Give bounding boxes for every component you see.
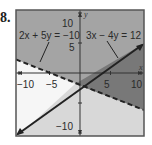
inequality-graph: −10 −5 5 10 10 5 −10 y x 2x + 5y = −10 3…	[0, 0, 152, 145]
y-tick-label: −10	[56, 121, 73, 132]
eq2-label: 3x − 4y = 12	[86, 30, 141, 41]
y-axis-label: y	[83, 10, 88, 19]
y-tick-label: 5	[69, 42, 75, 53]
y-tick-label: 10	[62, 18, 74, 29]
x-tick-label: 5	[104, 79, 110, 90]
eq1-label: 2x + 5y = −10	[19, 30, 80, 41]
x-axis-label: x	[138, 63, 143, 72]
x-tick-label: −10	[17, 79, 34, 90]
x-tick-label: 10	[131, 79, 143, 90]
x-tick-label: −5	[46, 79, 58, 90]
